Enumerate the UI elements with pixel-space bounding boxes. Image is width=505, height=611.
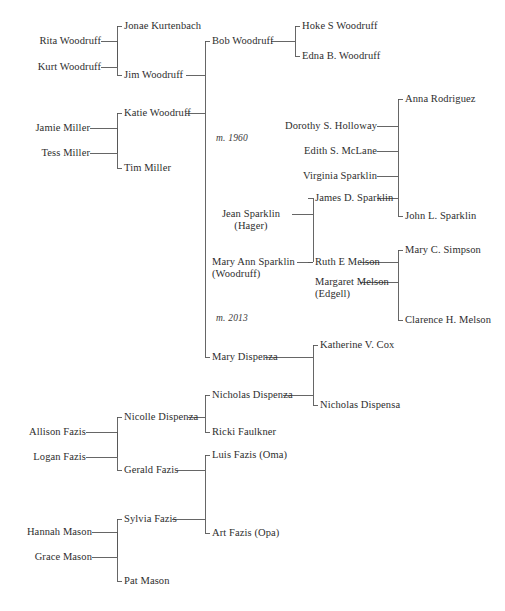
person-art-fazis-opa[interactable]: Art Fazis (Opa)	[212, 527, 279, 539]
person-john-l-sparklin[interactable]: John L. Sparklin	[405, 210, 476, 222]
person-label: Anna Rodriguez	[405, 93, 476, 104]
person-label: Katherine V. Cox	[320, 339, 394, 350]
person-label: Sylvia Fazis	[124, 513, 177, 524]
person-hannah-mason[interactable]: Hannah Mason	[0, 526, 92, 538]
person-virginia-sparklin[interactable]: Virginia Sparklin	[225, 170, 377, 182]
person-label: Mary Dispenza	[212, 351, 278, 362]
person-mary-c-simpson[interactable]: Mary C. Simpson	[405, 244, 481, 256]
person-label: Ruth E Melson	[315, 256, 380, 267]
person-nicholas-dispensa[interactable]: Nicholas Dispensa	[320, 399, 400, 411]
person-label: Hoke S Woodruff	[302, 20, 378, 31]
person-label: Nicolle Dispenza	[124, 411, 198, 422]
person-label: Luis Fazis (Oma)	[212, 449, 287, 460]
marriage-label-2013: m. 2013	[216, 313, 248, 323]
person-gerald-fazis[interactable]: Gerald Fazis	[124, 464, 179, 476]
person-label: John L. Sparklin	[405, 210, 476, 221]
person-jim-woodruff[interactable]: Jim Woodruff	[124, 69, 183, 81]
person-label: Mary Ann Sparklin	[212, 256, 295, 267]
person-nicolle-dispenza[interactable]: Nicolle Dispenza	[124, 411, 198, 423]
person-label: Virginia Sparklin	[303, 170, 377, 181]
person-label: Allison Fazis	[29, 426, 86, 437]
person-katherine-v-cox[interactable]: Katherine V. Cox	[320, 339, 394, 351]
person-ricki-faulkner[interactable]: Ricki Faulkner	[212, 426, 276, 438]
person-label: Hannah Mason	[27, 526, 92, 537]
person-sylvia-fazis[interactable]: Sylvia Fazis	[124, 513, 177, 525]
person-allison-fazis[interactable]: Allison Fazis	[0, 426, 86, 438]
person-logan-fazis[interactable]: Logan Fazis	[0, 451, 86, 463]
marriage-text: m. 1960	[216, 133, 248, 143]
person-label: Nicholas Dispensa	[320, 399, 400, 410]
person-mary-dispenza[interactable]: Mary Dispenza	[212, 351, 278, 363]
person-kurt-woodruff[interactable]: Kurt Woodruff	[0, 61, 101, 73]
person-label: Gerald Fazis	[124, 464, 179, 475]
person-pat-mason[interactable]: Pat Mason	[124, 575, 170, 587]
person-label: Edna B. Woodruff	[302, 50, 380, 61]
person-maiden-name: (Woodruff)	[212, 268, 295, 280]
person-label: Clarence H. Melson	[405, 314, 491, 325]
person-label: James D. Sparklin	[315, 192, 393, 203]
person-anna-rodriguez[interactable]: Anna Rodriguez	[405, 93, 476, 105]
person-clarence-h-melson[interactable]: Clarence H. Melson	[405, 314, 491, 326]
person-label: Mary C. Simpson	[405, 244, 481, 255]
person-label: Tess Miller	[42, 147, 90, 158]
person-label: Jamie Miller	[35, 122, 90, 133]
person-label: Jonae Kurtenbach	[124, 20, 201, 31]
marriage-label-1960: m. 1960	[216, 133, 248, 143]
person-label: Nicholas Dispenza	[212, 389, 293, 400]
person-margaret-melson[interactable]: Margaret Melson (Edgell)	[315, 276, 389, 300]
person-luis-fazis-oma[interactable]: Luis Fazis (Oma)	[212, 449, 287, 461]
person-katie-woodruff[interactable]: Katie Woodruff	[124, 107, 191, 119]
person-ruth-e-melson[interactable]: Ruth E Melson	[315, 256, 380, 268]
person-label: Edith S. McLane	[304, 145, 377, 156]
person-grace-mason[interactable]: Grace Mason	[0, 551, 92, 563]
person-jean-sparklin[interactable]: Jean Sparklin (Hager)	[205, 208, 297, 232]
person-label: Rita Woodruff	[39, 35, 101, 46]
person-jamie-miller[interactable]: Jamie Miller	[0, 122, 90, 134]
person-label: Dorothy S. Holloway	[285, 120, 377, 131]
person-bob-woodruff[interactable]: Bob Woodruff	[212, 35, 274, 47]
marriage-text: m. 2013	[216, 313, 248, 323]
person-label: Jim Woodruff	[124, 69, 183, 80]
person-maiden-name: (Edgell)	[315, 288, 389, 300]
person-tess-miller[interactable]: Tess Miller	[0, 147, 90, 159]
person-label: Art Fazis (Opa)	[212, 527, 279, 538]
person-label: Tim Miller	[124, 162, 171, 173]
person-label: Katie Woodruff	[124, 107, 191, 118]
person-label: Ricki Faulkner	[212, 426, 276, 437]
person-mary-ann-sparklin[interactable]: Mary Ann Sparklin (Woodruff)	[212, 256, 295, 280]
person-label: Grace Mason	[35, 551, 92, 562]
person-edith-s-mclane[interactable]: Edith S. McLane	[225, 145, 377, 157]
family-tree-diagram: Rita Woodruff Kurt Woodruff Jamie Miller…	[0, 0, 505, 611]
person-dorothy-s-holloway[interactable]: Dorothy S. Holloway	[225, 120, 377, 132]
person-label: Kurt Woodruff	[38, 61, 101, 72]
person-james-d-sparklin[interactable]: James D. Sparklin	[315, 192, 393, 204]
person-label: Bob Woodruff	[212, 35, 274, 46]
person-maiden-name: (Hager)	[205, 220, 297, 232]
person-label: Pat Mason	[124, 575, 170, 586]
person-edna-b-woodruff[interactable]: Edna B. Woodruff	[302, 50, 380, 62]
person-tim-miller[interactable]: Tim Miller	[124, 162, 171, 174]
person-label: Margaret Melson	[315, 276, 389, 287]
person-rita-woodruff[interactable]: Rita Woodruff	[0, 35, 101, 47]
person-label: Logan Fazis	[33, 451, 86, 462]
person-jonae-kurtenbach[interactable]: Jonae Kurtenbach	[124, 20, 201, 32]
person-label: Jean Sparklin	[222, 208, 280, 219]
connector-lines	[0, 0, 505, 611]
person-hoke-s-woodruff[interactable]: Hoke S Woodruff	[302, 20, 378, 32]
person-nicholas-dispenza[interactable]: Nicholas Dispenza	[212, 389, 293, 401]
